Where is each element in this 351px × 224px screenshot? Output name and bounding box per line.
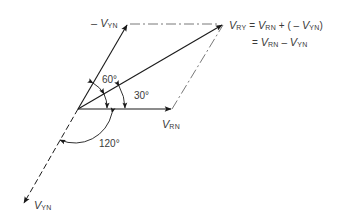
subscript: RN — [268, 41, 279, 48]
angle-arc-30 — [119, 86, 125, 108]
phasor-vry — [78, 25, 222, 109]
label-vrn: VRN — [162, 119, 180, 130]
equals: = — [252, 37, 258, 48]
angle-label-30: 30° — [134, 91, 149, 101]
plus-open: + ( — [279, 20, 291, 31]
angle-arc-60b — [104, 94, 107, 108]
equals: = — [249, 20, 255, 31]
phasor-vyn — [24, 109, 78, 203]
angle-label-120: 120° — [99, 139, 120, 149]
subscript: RN — [169, 123, 180, 130]
subscript: YN — [309, 24, 319, 31]
minus-sign: – — [281, 37, 287, 48]
subscript: YN — [108, 22, 118, 29]
subscript: RY — [236, 24, 246, 31]
subscript: YN — [41, 204, 51, 211]
subscript: YN — [297, 41, 307, 48]
equation-line-2: = VRN – VYN — [252, 37, 307, 48]
label-neg-vyn: – VYN — [91, 18, 118, 29]
phasor-neg-vyn — [78, 25, 127, 109]
neg-sign: – — [91, 17, 97, 29]
construction-line-right — [172, 25, 223, 109]
phasor-diagram — [0, 0, 351, 224]
close-paren: ) — [320, 20, 323, 31]
subscript: RN — [265, 24, 276, 31]
label-vyn: VYN — [34, 200, 52, 211]
neg-sign: – — [294, 20, 300, 31]
symbol: V — [100, 17, 107, 29]
angle-label-60: 60° — [102, 75, 117, 85]
symbol: V — [261, 36, 268, 48]
equation-line-1: VRY = VRN + ( – VYN) — [229, 20, 323, 31]
